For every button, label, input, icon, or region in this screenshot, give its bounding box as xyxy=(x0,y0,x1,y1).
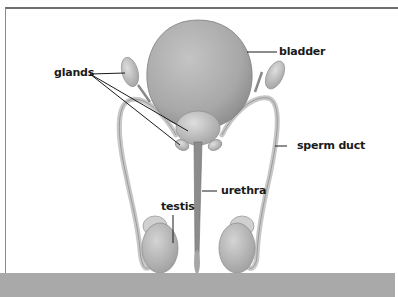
label-testis: testis xyxy=(161,201,195,213)
label-sperm-duct: sperm duct xyxy=(297,140,365,152)
leader-glands-upper xyxy=(90,73,125,74)
gland-right-upper xyxy=(261,58,288,92)
urethra-tip xyxy=(194,250,200,274)
urethra-organ xyxy=(194,142,202,265)
label-glands: glands xyxy=(54,67,94,79)
testis-right xyxy=(219,216,255,273)
label-urethra: urethra xyxy=(221,185,266,197)
label-bladder: bladder xyxy=(279,46,325,58)
bottom-band xyxy=(0,273,395,297)
vesicle-duct-right xyxy=(255,72,262,92)
gland-left-upper xyxy=(118,55,141,88)
